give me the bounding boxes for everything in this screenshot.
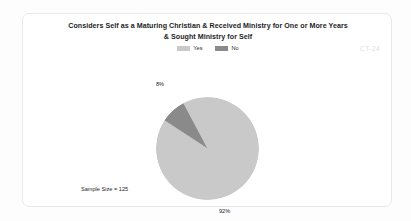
legend-swatch-yes <box>177 46 190 51</box>
chart-title-line-1: Considers Self as a Maturing Christian &… <box>37 21 379 32</box>
scanned-page: Considers Self as a Maturing Christian &… <box>0 0 411 221</box>
document-watermark: CT-24 <box>360 45 380 52</box>
legend-item-no: No <box>215 45 238 51</box>
legend-item-yes: Yes <box>177 45 202 51</box>
sample-size-label: Sample Size = 125 <box>81 186 128 192</box>
pie-svg <box>156 97 259 200</box>
chart-card: Considers Self as a Maturing Christian &… <box>22 13 392 207</box>
chart-legend: Yes No <box>23 45 393 51</box>
pie-slices <box>156 97 259 200</box>
plot-area: 8% 92% Sample Size = 125 <box>23 56 393 206</box>
legend-label-no: No <box>231 45 238 51</box>
pie-label-yes: 92% <box>219 208 230 214</box>
legend-label-yes: Yes <box>193 45 202 51</box>
legend-swatch-no <box>215 46 228 51</box>
pie-label-no: 8% <box>156 81 164 87</box>
pie-chart <box>156 97 259 200</box>
chart-title-line-2: & Sought Ministry for Self <box>37 32 379 43</box>
page-title: Considers Self as a Maturing Christian &… <box>37 21 379 42</box>
